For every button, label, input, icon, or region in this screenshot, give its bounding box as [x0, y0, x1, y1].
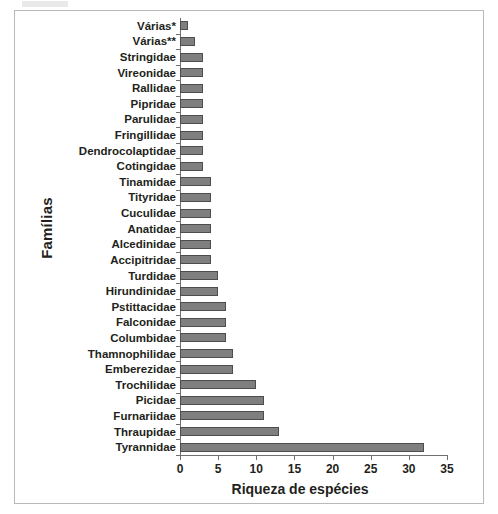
y-axis-tick-label: Tyrannidae: [6, 441, 176, 453]
bar: [180, 396, 264, 405]
x-axis-tick: [371, 455, 372, 460]
x-axis-tick-label: 30: [389, 462, 429, 476]
y-axis-tick: [176, 205, 180, 206]
y-axis-tick: [176, 408, 180, 409]
y-axis-tick: [176, 393, 180, 394]
bar: [180, 427, 279, 436]
bar: [180, 443, 424, 452]
y-axis-tick-label: Trochilidae: [6, 379, 176, 391]
x-axis-tick: [218, 455, 219, 460]
bar: [180, 333, 226, 342]
x-axis-tick: [180, 455, 181, 460]
y-axis-tick: [176, 377, 180, 378]
y-axis-tick: [176, 34, 180, 35]
bar: [180, 302, 226, 311]
x-axis-tick-label: 15: [274, 462, 314, 476]
x-axis-tick: [409, 455, 410, 460]
y-axis-tick-label: Pstittacidae: [6, 301, 176, 313]
y-axis-tick: [176, 268, 180, 269]
y-axis-tick: [176, 65, 180, 66]
bar: [180, 68, 203, 77]
x-axis-tick: [333, 455, 334, 460]
y-axis-tick-label: Fringillidae: [6, 129, 176, 141]
y-axis-tick-label: Picidae: [6, 394, 176, 406]
y-axis-tick: [176, 221, 180, 222]
y-axis-tick-labels: Várias*Várias**StringidaeVireonidaeRalli…: [4, 18, 176, 455]
y-axis-tick-label: Accipitridae: [6, 254, 176, 266]
y-axis-tick: [176, 283, 180, 284]
y-axis-tick: [176, 112, 180, 113]
bar: [180, 131, 203, 140]
y-axis-tick-label: Tinamidae: [6, 176, 176, 188]
y-axis-tick: [176, 424, 180, 425]
bar: [180, 224, 211, 233]
y-axis-tick: [176, 237, 180, 238]
y-axis-tick-label: Alcedinidae: [6, 238, 176, 250]
y-axis-tick: [176, 361, 180, 362]
y-axis-tick: [176, 252, 180, 253]
y-axis-tick-label: Thamnophilidae: [6, 348, 176, 360]
bar: [180, 209, 211, 218]
bar: [180, 349, 233, 358]
y-axis-tick: [176, 96, 180, 97]
y-axis-tick-label: Anatidae: [6, 223, 176, 235]
bar: [180, 380, 256, 389]
scan-artifact: [22, 1, 68, 7]
bar: [180, 365, 233, 374]
y-axis-tick-label: Vireonidae: [6, 67, 176, 79]
x-axis-tick: [447, 455, 448, 460]
x-axis-tick: [294, 455, 295, 460]
y-axis-tick-label: Furnariidae: [6, 410, 176, 422]
bar: [180, 21, 188, 30]
x-axis-tick-label: 35: [427, 462, 467, 476]
y-axis-tick-label: Rallidae: [6, 82, 176, 94]
bar: [180, 115, 203, 124]
y-axis-tick-label: Cotingidae: [6, 160, 176, 172]
y-axis-tick-label: Tityridae: [6, 191, 176, 203]
bar: [180, 193, 211, 202]
y-axis-tick-label: Parulidae: [6, 113, 176, 125]
y-axis-tick: [176, 80, 180, 81]
y-axis-tick-label: Várias**: [6, 35, 176, 47]
y-axis-tick: [176, 49, 180, 50]
x-axis-tick-label: 25: [351, 462, 391, 476]
y-axis-tick-label: Emberezidae: [6, 363, 176, 375]
x-axis-tick-label: 20: [313, 462, 353, 476]
y-axis-tick-label: Falconidae: [6, 316, 176, 328]
y-axis-tick-label: Hirundinidae: [6, 285, 176, 297]
x-axis-tick: [256, 455, 257, 460]
x-axis-tick-label: 5: [198, 462, 238, 476]
y-axis-tick-label: Stringidae: [6, 51, 176, 63]
y-axis-tick: [176, 439, 180, 440]
bar: [180, 99, 203, 108]
y-axis-tick: [176, 315, 180, 316]
bar: [180, 37, 195, 46]
bar: [180, 255, 211, 264]
y-axis-tick-label: Cuculidae: [6, 207, 176, 219]
y-axis-tick: [176, 299, 180, 300]
y-axis-tick: [176, 346, 180, 347]
bar: [180, 53, 203, 62]
bar: [180, 84, 203, 93]
bar: [180, 177, 211, 186]
bar: [180, 240, 211, 249]
y-axis-tick-label: Várias*: [6, 20, 176, 32]
bar: [180, 318, 226, 327]
y-axis-tick-label: Thraupidae: [6, 426, 176, 438]
y-axis-tick-label: Turdidae: [6, 270, 176, 282]
bar: [180, 271, 218, 280]
figure-chart-riqueza-de-especies: Famílias Várias*Várias**StringidaeVireon…: [0, 0, 498, 514]
y-axis-tick-label: Pipridae: [6, 98, 176, 110]
y-axis-tick: [176, 127, 180, 128]
y-axis-tick: [176, 330, 180, 331]
y-axis-tick: [176, 143, 180, 144]
x-axis-title: Riqueza de espécies: [150, 481, 450, 497]
x-axis-line: [180, 455, 448, 456]
x-axis-tick-label: 0: [160, 462, 200, 476]
bar: [180, 146, 203, 155]
y-axis-tick-label: Columbidae: [6, 332, 176, 344]
y-axis-tick: [176, 190, 180, 191]
bar: [180, 411, 264, 420]
y-axis-tick-label: Dendrocolaptidae: [6, 145, 176, 157]
bar: [180, 162, 203, 171]
